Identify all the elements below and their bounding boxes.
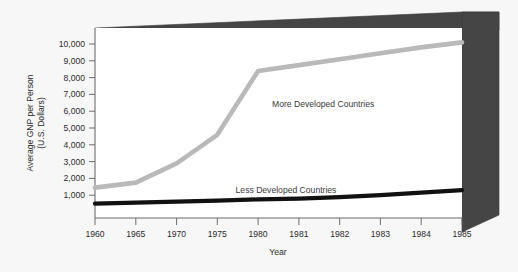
y-tick-label-6000: 6,000 xyxy=(63,106,85,116)
x-tick-label-1981: 1981 xyxy=(289,229,308,239)
chart-figure: 1,000 2,000 3,000 4,000 5,000 6,000 7,00… xyxy=(0,0,518,272)
y-tick-label-10000: 10,000 xyxy=(59,39,86,49)
y-tick-label-4000: 4,000 xyxy=(63,140,85,150)
annotation-less-developed-countries: Less Developed Countries xyxy=(236,185,337,195)
y-axis-title-line1: Average GNP per Person xyxy=(25,74,35,171)
frame-right-panel xyxy=(462,12,499,232)
x-tick-label-1980: 1980 xyxy=(249,229,268,239)
annotation-more-developed-countries: More Developed Countries xyxy=(272,99,374,109)
y-tick-label-5000: 5,000 xyxy=(63,123,85,133)
x-tick-label-1984: 1984 xyxy=(412,229,431,239)
y-tick-label-9000: 9,000 xyxy=(63,56,85,66)
x-tick-label-1983: 1983 xyxy=(371,229,390,239)
gnp-per-person-line-chart: 1,000 2,000 3,000 4,000 5,000 6,000 7,00… xyxy=(0,0,518,272)
y-tick-label-3000: 3,000 xyxy=(63,157,85,167)
x-tick-label-1970: 1970 xyxy=(167,229,186,239)
x-tick-label-1982: 1982 xyxy=(330,229,349,239)
x-tick-label-1985: 1985 xyxy=(452,229,471,239)
x-tick-label-1975: 1975 xyxy=(208,229,227,239)
y-tick-label-7000: 7,000 xyxy=(63,89,85,99)
x-tick-label-1965: 1965 xyxy=(126,229,145,239)
y-tick-label-1000: 1,000 xyxy=(63,190,85,200)
y-axis-title-line2: (U.S. Dollars) xyxy=(36,97,46,149)
y-tick-label-2000: 2,000 xyxy=(63,173,85,183)
y-tick-label-8000: 8,000 xyxy=(63,73,85,83)
x-tick-label-1960: 1960 xyxy=(85,229,104,239)
x-axis-title: Year xyxy=(269,247,287,257)
